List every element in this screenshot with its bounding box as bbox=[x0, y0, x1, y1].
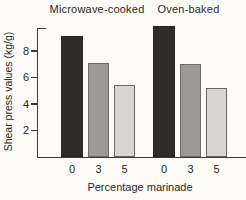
y-tick-mark bbox=[31, 130, 37, 131]
y-axis-top-cap bbox=[37, 28, 46, 29]
x-category-label: 5 bbox=[203, 163, 230, 176]
bar-microwave-cooked-0pct bbox=[61, 36, 83, 157]
x-axis-title: Percentage marinade bbox=[60, 181, 220, 193]
bar-oven-baked-5pct bbox=[206, 88, 227, 157]
x-category-label: 3 bbox=[85, 163, 112, 176]
x-category-label: 3 bbox=[177, 163, 204, 176]
y-tick-mark bbox=[31, 103, 37, 104]
group-title-oven-baked: Oven-baked bbox=[150, 3, 227, 15]
y-axis-line bbox=[37, 28, 38, 157]
bar-microwave-cooked-5pct bbox=[114, 85, 135, 157]
bar-chart-figure: Microwave-cooked Oven-baked Shear press … bbox=[0, 0, 246, 200]
y-tick-label: 6 bbox=[15, 71, 29, 84]
group-title-microwave-cooked: Microwave-cooked bbox=[40, 3, 154, 15]
y-tick-label: 8 bbox=[15, 45, 29, 58]
x-category-label: 0 bbox=[58, 163, 86, 176]
x-category-label: 0 bbox=[150, 163, 178, 176]
y-tick-label: 4 bbox=[15, 98, 29, 111]
y-tick-label: 2 bbox=[15, 124, 29, 137]
bar-microwave-cooked-3pct bbox=[88, 63, 109, 157]
y-tick-mark bbox=[31, 77, 37, 78]
y-tick-mark bbox=[31, 50, 37, 51]
bar-oven-baked-3pct bbox=[180, 64, 201, 157]
bar-oven-baked-0pct bbox=[153, 26, 175, 157]
x-category-label: 5 bbox=[111, 163, 138, 176]
y-axis-title: Shear press values (kg/g) bbox=[2, 20, 15, 164]
